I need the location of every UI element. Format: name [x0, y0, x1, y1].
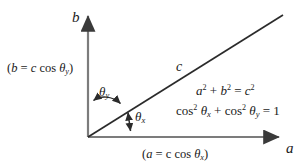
x-component-expression: (a = c cos θx) [142, 148, 208, 161]
vector-component-diagram: b a c θy θx (b = c cos θy) (a = c cos θx… [0, 0, 306, 167]
equals-sign: = [231, 83, 245, 98]
plus-sign: + [211, 103, 225, 118]
theta-y-label: θy [99, 85, 109, 98]
result-value: 1 [273, 103, 280, 118]
theta-x-subscript: x [141, 115, 145, 125]
cos-function-2: cos [225, 103, 242, 118]
equals-sign: = [17, 61, 30, 75]
cos-function-1: cos [176, 103, 193, 118]
cos-function: cos [171, 147, 194, 161]
close-paren: ) [204, 147, 208, 161]
exponent-c: 2 [251, 83, 255, 92]
hypotenuse-line [88, 15, 283, 137]
cos-exponent-2: 2 [242, 103, 246, 112]
x-axis-label: a [286, 141, 294, 156]
diagram-graphics [0, 0, 306, 167]
equals-sign: = [260, 103, 274, 118]
equals-sign: = [152, 147, 165, 161]
cosine-identity-equation: cos2 θx + cos2 θy = 1 [176, 104, 280, 117]
pythagorean-equation: a2 + b2 = c2 [196, 84, 255, 97]
plus-sign: + [207, 83, 221, 98]
cos-function: cos [36, 61, 59, 75]
theta-x-angle-arrow [128, 113, 131, 132]
close-paren: ) [69, 61, 73, 75]
theta-x-label: θx [135, 110, 145, 123]
y-component-expression: (b = c cos θy) [7, 62, 73, 75]
theta-y-subscript: y [105, 90, 109, 100]
cos-exponent-1: 2 [193, 103, 197, 112]
hypotenuse-label: c [176, 60, 182, 74]
y-axis-label: b [72, 10, 80, 25]
